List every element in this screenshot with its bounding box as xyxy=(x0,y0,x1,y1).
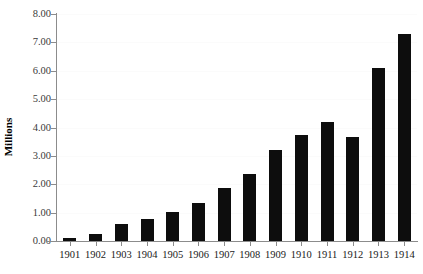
x-axis-tick-mark xyxy=(173,242,174,246)
y-axis-tick-labels: 0.001.002.003.004.005.006.007.008.00 xyxy=(6,0,51,274)
bar[interactable] xyxy=(295,135,308,241)
x-axis-tick-label: 1914 xyxy=(386,249,422,261)
y-axis-tick-mark xyxy=(51,184,57,185)
x-axis-tick-mark xyxy=(224,242,225,246)
bar[interactable] xyxy=(89,234,102,241)
y-axis-tick-mark xyxy=(51,99,57,100)
y-axis-tick-mark xyxy=(51,14,57,15)
bar[interactable] xyxy=(269,150,282,241)
x-axis-tick-mark xyxy=(276,242,277,246)
y-axis-tick-label: 0.00 xyxy=(9,236,51,247)
y-axis-tick-mark xyxy=(51,128,57,129)
bar[interactable] xyxy=(398,34,411,241)
x-axis-tick-mark xyxy=(121,242,122,246)
bar[interactable] xyxy=(192,203,205,241)
y-axis-tick-mark xyxy=(51,213,57,214)
bar[interactable] xyxy=(346,137,359,241)
y-axis-tick-label: 4.00 xyxy=(9,123,51,134)
y-axis-tick-label: 8.00 xyxy=(9,9,51,20)
gridline xyxy=(57,128,417,129)
bar-chart-figure: Millions 0.001.002.003.004.005.006.007.0… xyxy=(0,0,423,274)
bar[interactable] xyxy=(372,68,385,241)
y-axis-tick-mark xyxy=(51,156,57,157)
x-axis-line xyxy=(46,241,418,242)
bar[interactable] xyxy=(115,224,128,241)
x-axis-tick-mark xyxy=(96,242,97,246)
gridline xyxy=(57,71,417,72)
x-axis-tick-mark xyxy=(327,242,328,246)
plot-area xyxy=(57,14,417,241)
y-axis-tick-label: 2.00 xyxy=(9,179,51,190)
x-axis-tick-mark xyxy=(147,242,148,246)
x-axis-tick-mark xyxy=(404,242,405,246)
bar[interactable] xyxy=(166,212,179,241)
y-axis-tick-label: 1.00 xyxy=(9,208,51,219)
bar[interactable] xyxy=(243,174,256,241)
y-axis-tick-label: 6.00 xyxy=(9,66,51,77)
y-axis-tick-mark xyxy=(51,241,57,242)
x-axis-tick-mark xyxy=(70,242,71,246)
x-axis-tick-mark xyxy=(198,242,199,246)
y-axis-tick-mark xyxy=(51,71,57,72)
y-axis-tick-label: 5.00 xyxy=(9,94,51,105)
gridline xyxy=(57,156,417,157)
y-axis-tick-label: 3.00 xyxy=(9,151,51,162)
x-axis-tick-mark xyxy=(378,242,379,246)
bar[interactable] xyxy=(218,188,231,241)
bar[interactable] xyxy=(321,122,334,241)
x-axis-tick-mark xyxy=(250,242,251,246)
gridline xyxy=(57,213,417,214)
y-axis-tick-mark xyxy=(51,42,57,43)
x-axis-tick-mark xyxy=(353,242,354,246)
gridline xyxy=(57,14,417,15)
gridline xyxy=(57,42,417,43)
gridline xyxy=(57,184,417,185)
x-axis-tick-mark xyxy=(301,242,302,246)
bar[interactable] xyxy=(141,219,154,241)
y-axis-tick-label: 7.00 xyxy=(9,37,51,48)
gridline xyxy=(57,99,417,100)
bar[interactable] xyxy=(63,238,76,241)
